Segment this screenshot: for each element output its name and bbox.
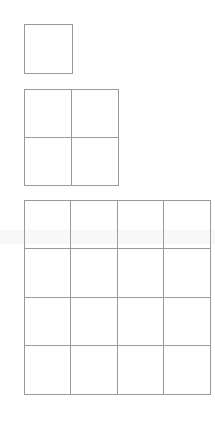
grid-cell xyxy=(71,298,117,346)
grid-cell xyxy=(71,346,117,394)
grid-cell xyxy=(71,249,117,297)
grid-cell xyxy=(164,201,210,249)
grid-4x4 xyxy=(24,200,211,395)
grid-cell xyxy=(72,138,119,186)
grid-cell xyxy=(164,249,210,297)
grid-cell xyxy=(25,25,72,73)
grid-cell xyxy=(25,138,72,186)
grid-cell xyxy=(71,201,117,249)
grid-cell xyxy=(164,298,210,346)
grid-cell xyxy=(118,298,164,346)
grid-cell xyxy=(164,346,210,394)
grid-cell xyxy=(72,90,119,138)
grid-cell xyxy=(25,201,71,249)
grid-cell xyxy=(118,201,164,249)
grid-cell xyxy=(25,298,71,346)
grid-1x1 xyxy=(24,24,73,74)
grid-cell xyxy=(25,346,71,394)
grid-cell xyxy=(25,90,72,138)
grid-cell xyxy=(118,249,164,297)
grid-2x2 xyxy=(24,89,119,186)
grid-cell xyxy=(118,346,164,394)
grid-cell xyxy=(25,249,71,297)
